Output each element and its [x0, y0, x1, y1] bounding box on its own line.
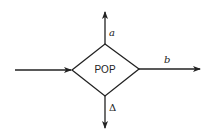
- output-delta-label: Δ: [109, 102, 116, 113]
- pop-diagram: POP a b Δ: [0, 0, 211, 137]
- output-b-label: b: [164, 54, 170, 65]
- pop-node-label: POP: [94, 64, 115, 75]
- output-a-label: a: [109, 27, 115, 38]
